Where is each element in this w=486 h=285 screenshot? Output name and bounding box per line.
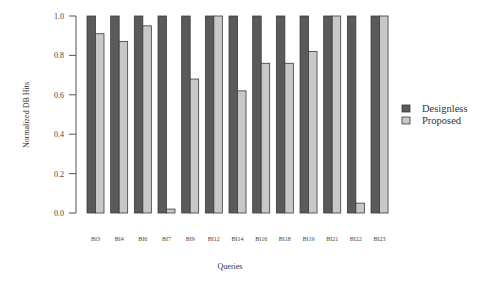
- y-tick-label: 0.2: [54, 170, 64, 179]
- bars: [87, 16, 388, 213]
- bar-chart: 0.00.20.40.60.81.0 BI3BI4BI6BI7BI9BI12BI…: [0, 0, 486, 285]
- bar-proposed-bi14: [238, 91, 247, 213]
- bar-group-bi6: [134, 16, 151, 213]
- x-tick-label: BI7: [162, 236, 171, 242]
- bar-group-bi14: [229, 16, 246, 213]
- bar-proposed-bi18: [285, 63, 294, 213]
- bar-designless-bi23: [371, 16, 380, 213]
- y-tick-label: 0.4: [54, 130, 64, 139]
- x-axis-labels: BI3BI4BI6BI7BI9BI12BI14BI16BI18BI19BI21B…: [91, 236, 386, 242]
- bar-designless-bi9: [182, 16, 191, 213]
- bar-proposed-bi12: [214, 16, 223, 213]
- x-tick-label: BI12: [208, 236, 220, 242]
- legend: DesignlessProposed: [402, 103, 468, 126]
- legend-swatch-proposed: [402, 117, 410, 124]
- bar-proposed-bi7: [167, 209, 176, 213]
- bar-designless-bi7: [158, 16, 167, 213]
- bar-proposed-bi4: [119, 42, 128, 213]
- x-tick-label: BI23: [374, 236, 386, 242]
- bar-group-bi16: [253, 16, 270, 213]
- x-tick-label: BI22: [350, 236, 362, 242]
- bar-group-bi23: [371, 16, 388, 213]
- bar-designless-bi22: [347, 16, 356, 213]
- bar-proposed-bi6: [143, 26, 152, 213]
- bar-proposed-bi22: [356, 203, 365, 213]
- bar-designless-bi14: [229, 16, 238, 213]
- bar-group-bi7: [158, 16, 175, 213]
- bar-designless-bi18: [276, 16, 285, 213]
- x-tick-label: BI14: [232, 236, 244, 242]
- bar-designless-bi19: [300, 16, 309, 213]
- bar-group-bi9: [182, 16, 199, 213]
- y-axis: 0.00.20.40.60.81.0: [54, 12, 76, 218]
- bar-designless-bi12: [205, 16, 214, 213]
- bar-group-bi21: [324, 16, 341, 213]
- legend-label-designless: Designless: [422, 103, 468, 114]
- x-tick-label: BI16: [255, 236, 267, 242]
- bar-proposed-bi3: [96, 34, 105, 213]
- x-tick-label: BI6: [138, 236, 147, 242]
- bar-designless-bi3: [87, 16, 96, 213]
- bar-designless-bi6: [134, 16, 143, 213]
- x-tick-label: BI19: [303, 236, 315, 242]
- bar-group-bi18: [276, 16, 293, 213]
- bar-group-bi3: [87, 16, 104, 213]
- x-tick-label: BI18: [279, 236, 291, 242]
- legend-label-proposed: Proposed: [422, 115, 462, 126]
- bar-designless-bi21: [324, 16, 333, 213]
- x-tick-label: BI4: [115, 236, 124, 242]
- bar-group-bi19: [300, 16, 317, 213]
- bar-group-bi22: [347, 16, 364, 213]
- x-axis-title: Queries: [218, 262, 243, 271]
- legend-swatch-designless: [402, 105, 410, 112]
- x-tick-label: BI9: [186, 236, 195, 242]
- x-tick-label: BI21: [326, 236, 338, 242]
- y-tick-label: 0.8: [54, 51, 64, 60]
- y-tick-label: 1.0: [54, 12, 64, 21]
- bar-proposed-bi16: [261, 63, 270, 213]
- bar-proposed-bi9: [190, 79, 199, 213]
- bar-group-bi12: [205, 16, 222, 213]
- bar-group-bi4: [111, 16, 128, 213]
- y-tick-label: 0.6: [54, 91, 64, 100]
- bar-designless-bi16: [253, 16, 262, 213]
- y-tick-label: 0.0: [54, 209, 64, 218]
- y-axis-title: Normalized DB Hits: [22, 82, 31, 148]
- bar-proposed-bi21: [332, 16, 341, 213]
- bar-proposed-bi23: [380, 16, 389, 213]
- x-tick-label: BI3: [91, 236, 100, 242]
- bar-proposed-bi19: [309, 51, 318, 213]
- bar-designless-bi4: [111, 16, 120, 213]
